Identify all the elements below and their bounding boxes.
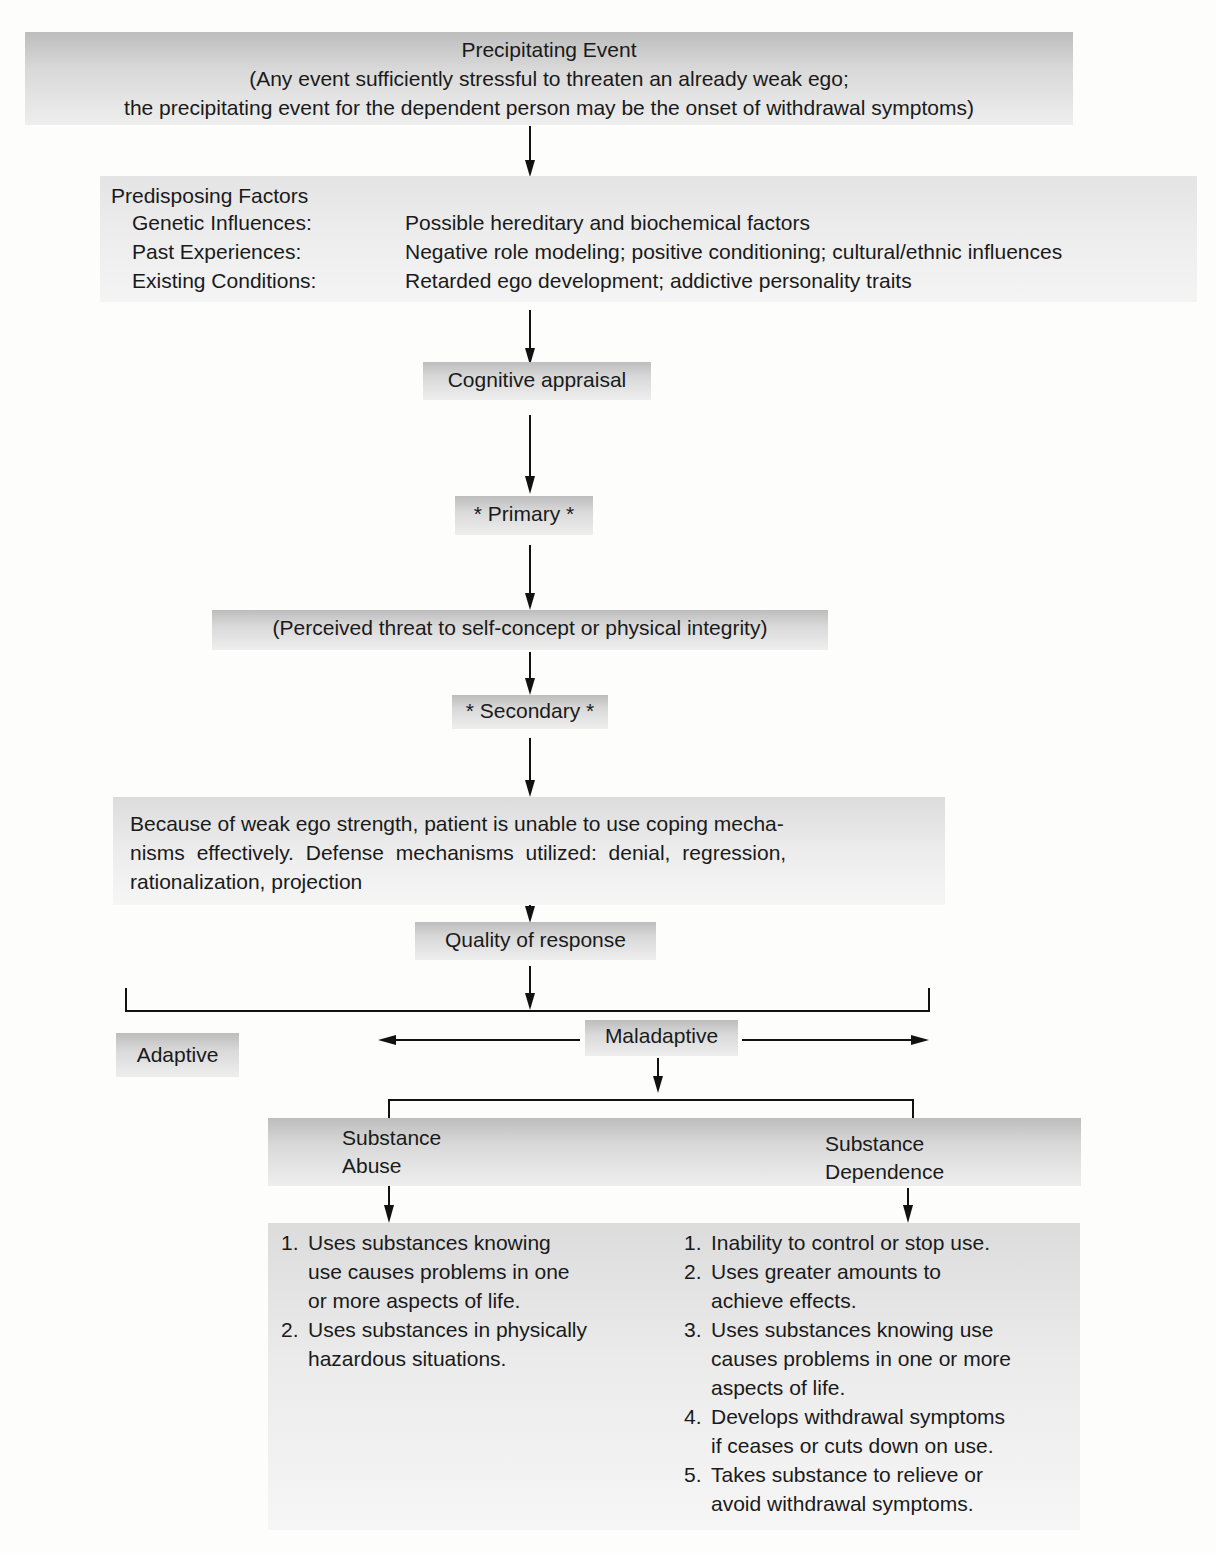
substance-abuse-title-line1: Substance [342, 1124, 441, 1152]
perceived-threat-box: (Perceived threat to self-concept or phy… [212, 610, 828, 650]
defense-line2: nisms effectively. Defense mechanisms ut… [130, 838, 930, 867]
substance-header-band: Substance Abuse Substance Dependence [268, 1118, 1081, 1186]
defense-line1: Because of weak ego strength, patient is… [130, 809, 930, 838]
substance-abuse-title: Substance Abuse [342, 1124, 441, 1180]
precipitating-event-title: Precipitating Event [25, 35, 1073, 64]
substance-abuse-criteria: 1. Uses substances knowing use causes pr… [281, 1228, 587, 1373]
dependence-criterion-2: 2. Uses greater amounts to achieve effec… [684, 1257, 1011, 1315]
dependence-criterion-5: 5. Takes substance to relieve or avoid w… [684, 1460, 1011, 1518]
precipitating-event-box: Precipitating Event (Any event sufficien… [25, 32, 1073, 125]
maladaptive-label: Maladaptive [605, 1024, 718, 1047]
substance-dependence-title: Substance Dependence [825, 1130, 944, 1186]
primary-box: * Primary * [455, 496, 593, 535]
dependence-criterion-4: 4. Develops withdrawal symptoms if cease… [684, 1402, 1011, 1460]
genetic-influences-value: Possible hereditary and biochemical fact… [405, 211, 810, 235]
dependence-criterion-1: 1. Inability to control or stop use. [684, 1228, 1011, 1257]
abuse-criterion-2: 2. Uses substances in physically hazardo… [281, 1315, 587, 1373]
quality-of-response-label: Quality of response [445, 928, 626, 951]
primary-label: * Primary * [474, 502, 574, 525]
defense-mechanisms-box: Because of weak ego strength, patient is… [113, 797, 945, 905]
precipitating-event-line2: the precipitating event for the dependen… [25, 93, 1073, 122]
maladaptive-box: Maladaptive [585, 1020, 738, 1056]
existing-conditions-label: Existing Conditions: [132, 269, 316, 293]
abuse-criterion-1: 1. Uses substances knowing use causes pr… [281, 1228, 587, 1315]
adaptive-label: Adaptive [137, 1043, 219, 1066]
existing-conditions-value: Retarded ego development; addictive pers… [405, 269, 912, 293]
substance-dependence-criteria: 1. Inability to control or stop use. 2. … [684, 1228, 1011, 1518]
substance-abuse-title-line2: Abuse [342, 1152, 441, 1180]
secondary-label: * Secondary * [466, 699, 594, 722]
cognitive-appraisal-label: Cognitive appraisal [448, 368, 627, 391]
past-experiences-value: Negative role modeling; positive conditi… [405, 240, 1062, 264]
substance-dependence-title-line2: Dependence [825, 1158, 944, 1186]
criteria-lists-box: 1. Uses substances knowing use causes pr… [268, 1223, 1080, 1530]
dependence-criterion-3: 3. Uses substances knowing use causes pr… [684, 1315, 1011, 1402]
substance-dependence-title-line1: Substance [825, 1130, 944, 1158]
genetic-influences-label: Genetic Influences: [132, 211, 312, 235]
adaptive-box: Adaptive [116, 1033, 239, 1077]
precipitating-event-line1: (Any event sufficiently stressful to thr… [25, 64, 1073, 93]
past-experiences-label: Past Experiences: [132, 240, 301, 264]
perceived-threat-label: (Perceived threat to self-concept or phy… [273, 616, 768, 639]
predisposing-factors-box: Predisposing Factors Genetic Influences:… [100, 176, 1197, 302]
cognitive-appraisal-box: Cognitive appraisal [423, 362, 651, 400]
defense-line3: rationalization, projection [130, 867, 930, 896]
secondary-box: * Secondary * [452, 695, 608, 729]
predisposing-factors-title: Predisposing Factors [111, 184, 308, 208]
quality-of-response-box: Quality of response [415, 922, 656, 960]
